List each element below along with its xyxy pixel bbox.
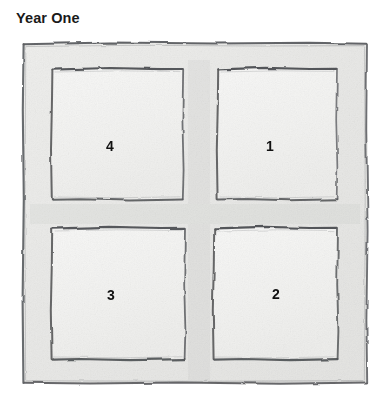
- sketch-figure: Year One: [0, 0, 384, 397]
- cell-2: [213, 227, 339, 360]
- cell-1: [217, 68, 338, 200]
- quadrant-diagram: [0, 0, 384, 397]
- cell-3: [51, 227, 186, 360]
- cell-4: [51, 68, 184, 200]
